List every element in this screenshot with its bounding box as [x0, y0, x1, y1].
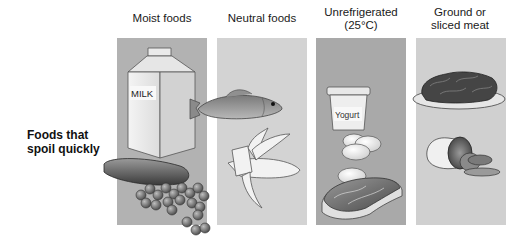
- milk-label: MILK: [131, 88, 154, 99]
- grapes-icon: [136, 183, 210, 235]
- food-illustrations: MILK Yogurt: [0, 0, 530, 245]
- yogurt-label: Yogurt: [335, 110, 360, 120]
- cucumber-icon: [104, 159, 189, 185]
- fish-icon: [190, 90, 282, 119]
- ground-meat-plate-icon: [413, 72, 505, 109]
- milk-carton-icon: MILK: [128, 48, 195, 158]
- yogurt-cup-icon: Yogurt: [327, 87, 370, 130]
- banana-icon: [228, 128, 300, 208]
- eggs-icon: [338, 134, 381, 184]
- sliced-meat-roll-icon: [427, 137, 500, 176]
- steak-icon: [322, 178, 402, 219]
